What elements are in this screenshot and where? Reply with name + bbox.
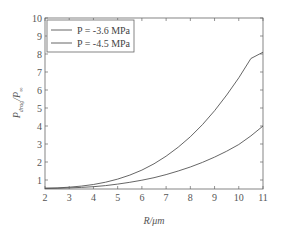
- x-tick-label: 2: [43, 192, 48, 203]
- y-tick-label: 3: [37, 139, 42, 150]
- series-line-2: [45, 126, 263, 189]
- legend-label: P = -4.5 MPa: [77, 38, 131, 49]
- x-tick-label: 6: [139, 192, 144, 203]
- y-tick-label: 8: [37, 49, 42, 60]
- y-tick-label: 6: [37, 85, 42, 96]
- x-tick-label: 4: [91, 192, 96, 203]
- x-tick-label: 9: [212, 192, 217, 203]
- chart: 23456789101112345678910 P = -3.6 MPaP = …: [0, 0, 281, 229]
- x-tick-label: 5: [115, 192, 120, 203]
- y-tick-label: 4: [37, 121, 42, 132]
- data-series: [45, 52, 263, 188]
- x-axis-label: R/μm: [142, 215, 164, 226]
- y-tick-label: 7: [37, 67, 42, 78]
- y-axis-label: Pdrug/P∞: [11, 87, 24, 119]
- x-tick-label: 3: [67, 192, 72, 203]
- legend-label: P = -3.6 MPa: [77, 25, 131, 36]
- x-tick-label: 10: [234, 192, 244, 203]
- legend: P = -3.6 MPaP = -4.5 MPa: [47, 20, 134, 52]
- series-line-1: [45, 52, 263, 188]
- y-tick-label: 10: [32, 13, 42, 24]
- y-tick-label: 5: [37, 103, 42, 114]
- y-tick-label: 1: [37, 175, 42, 186]
- y-tick-label: 2: [37, 157, 42, 168]
- svg-text:Pdrug/P∞: Pdrug/P∞: [11, 87, 24, 119]
- x-tick-label: 8: [188, 192, 193, 203]
- x-tick-label: 7: [164, 192, 169, 203]
- y-tick-label: 9: [37, 31, 42, 42]
- x-tick-label: 11: [258, 192, 268, 203]
